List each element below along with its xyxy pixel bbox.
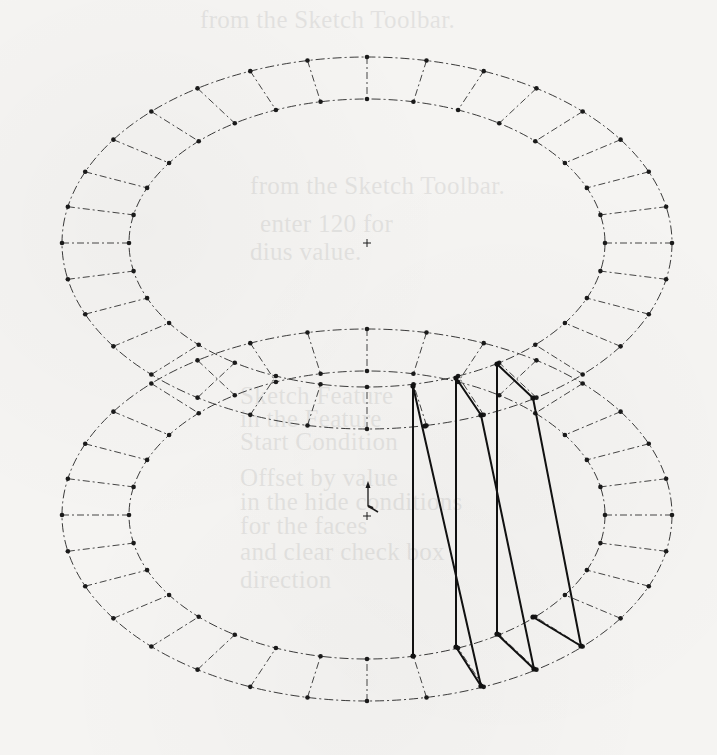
inner-vertex-dot	[585, 458, 590, 463]
inner-vertex-dot	[318, 371, 323, 376]
radial-tick	[151, 111, 198, 141]
radial-tick	[68, 271, 134, 279]
outer-vertex-dot	[664, 476, 669, 481]
outer-vertex-dot	[111, 409, 116, 414]
radial-tick	[499, 360, 536, 395]
radial-tick	[85, 172, 147, 188]
outer-vertex-dot	[580, 109, 585, 114]
outer-vertex-dot	[66, 476, 71, 481]
outer-vertex-dot	[66, 549, 71, 554]
radial-tick	[113, 412, 169, 435]
outer-vertex-dot	[365, 427, 370, 432]
outer-vertex-dot	[670, 513, 675, 518]
inner-vertex-dot	[456, 108, 461, 113]
outer-vertex-dot	[618, 409, 623, 414]
inner-vertex-dot	[497, 121, 502, 126]
inner-vertex-dot	[131, 269, 136, 274]
radial-tick	[413, 656, 426, 697]
inner-vertex-dot	[196, 343, 201, 348]
inner-vertex-dot	[603, 241, 608, 246]
outer-vertex-dot	[149, 644, 154, 649]
radial-tick	[565, 412, 621, 435]
outer-vertex-dot	[424, 330, 429, 335]
radial-tick	[68, 543, 134, 551]
outer-vertex-dot	[83, 170, 88, 175]
inner-vertex-dot	[167, 433, 172, 438]
inner-vertex-dot	[411, 371, 416, 376]
radial-tick	[250, 376, 276, 415]
inner-vertex-dot	[274, 646, 279, 651]
outer-vertex-dot	[534, 358, 539, 363]
inner-vertex-dot	[411, 99, 416, 104]
inner-vertex-dot	[145, 296, 150, 301]
radial-tick	[85, 444, 147, 460]
radial-tick	[113, 140, 169, 163]
panel-vertex-dot	[494, 361, 499, 366]
panel-vertex-dot	[530, 614, 535, 619]
outer-vertex-dot	[60, 241, 65, 246]
outer-vertex-dot	[424, 695, 429, 700]
outer-vertex-dot	[618, 616, 623, 621]
outer-vertex-dot	[83, 442, 88, 447]
inner-vertex-dot	[196, 139, 201, 144]
inner-vertex-dot	[145, 568, 150, 573]
extruded-panels	[410, 361, 583, 688]
inner-vertex-dot	[232, 360, 237, 365]
inner-vertex-dot	[585, 568, 590, 573]
inner-vertex-dot	[365, 97, 370, 102]
outer-vertex-dot	[149, 381, 154, 386]
inner-vertex-dot	[603, 513, 608, 518]
inner-vertex-dot	[318, 654, 323, 659]
panel-b-top-edge	[456, 378, 481, 415]
panel-vertex-dot	[453, 644, 458, 649]
outer-vertex-dot	[646, 312, 651, 317]
inner-vertex-dot	[563, 593, 568, 598]
radial-tick	[85, 570, 147, 586]
outer-vertex-dot	[481, 341, 486, 346]
panel-vertex-dot	[578, 643, 583, 648]
inner-vertex-dot	[127, 513, 132, 518]
panel-vertex-dot	[478, 412, 483, 417]
outer-vertex-dot	[664, 277, 669, 282]
outer-vertex-dot	[66, 277, 71, 282]
panel-vertex-dot	[410, 383, 415, 388]
inner-vertex-dot	[563, 161, 568, 166]
radial-tick	[151, 383, 198, 413]
outer-vertex-dot	[580, 381, 585, 386]
radial-tick	[600, 479, 666, 487]
radial-tick	[250, 343, 276, 382]
cad-ring-diagram	[0, 0, 717, 755]
inner-vertex-dot	[131, 485, 136, 490]
inner-vertex-dot	[196, 615, 201, 620]
center-marks	[363, 239, 378, 520]
inner-vertex-dot	[131, 213, 136, 218]
panel-vertex-dot	[478, 683, 483, 688]
outer-vertex-dot	[111, 344, 116, 349]
panel-vertex-dot	[531, 666, 536, 671]
inner-vertex-dot	[196, 411, 201, 416]
radial-tick	[413, 333, 426, 374]
outer-vertex-dot	[646, 170, 651, 175]
radial-tick	[458, 343, 484, 382]
radial-tick	[113, 323, 169, 346]
radial-tick	[198, 88, 235, 123]
inner-vertex-dot	[274, 380, 279, 385]
inner-vertex-dot	[127, 241, 132, 246]
inner-vertex-dot	[365, 369, 370, 374]
radial-tick	[68, 479, 134, 487]
inner-vertex-dot	[598, 269, 603, 274]
panel-vertex-dot	[453, 375, 458, 380]
top-center-cross	[363, 239, 371, 247]
radial-tick	[587, 172, 649, 188]
radial-tick	[250, 648, 276, 687]
outer-vertex-dot	[60, 513, 65, 518]
outer-vertex-dot	[305, 330, 310, 335]
radial-tick	[198, 360, 235, 395]
bottom-center-cross	[363, 512, 371, 520]
radial-tick	[198, 635, 235, 670]
inner-vertex-dot	[145, 458, 150, 463]
inner-vertex-dot	[563, 321, 568, 326]
inner-vertex-dot	[598, 485, 603, 490]
radial-tick	[307, 333, 320, 374]
inner-vertex-dot	[274, 108, 279, 113]
